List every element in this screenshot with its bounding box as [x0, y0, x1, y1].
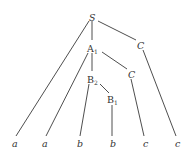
node-A1: A1: [86, 43, 98, 55]
edge-Cmid-c1: [131, 79, 144, 136]
leaf-a-1: a: [12, 138, 18, 149]
node-C-top: C: [137, 40, 145, 51]
leaf-b-1: b: [77, 138, 83, 149]
edge-S-Ctop: [98, 21, 136, 40]
edge-B2-B1: [100, 84, 109, 93]
edge-A1-Cmid: [102, 52, 127, 69]
leaf-c-2: c: [175, 138, 181, 149]
node-S: S: [89, 12, 96, 23]
node-B1: B1: [107, 94, 118, 106]
nodes: S A1 C B2 C B1 a a b b c c: [12, 12, 181, 149]
leaf-c-1: c: [143, 138, 149, 149]
edge-S-a1: [16, 21, 89, 136]
edge-B2-b1: [80, 84, 89, 136]
parse-tree-diagram: S A1 C B2 C B1 a a b b c c: [0, 0, 192, 151]
node-B2: B2: [87, 74, 98, 86]
node-C-mid: C: [128, 69, 136, 80]
leaf-b-2: b: [110, 138, 116, 149]
leaf-a-2: a: [42, 138, 48, 149]
edge-Ctop-c2: [143, 50, 176, 136]
